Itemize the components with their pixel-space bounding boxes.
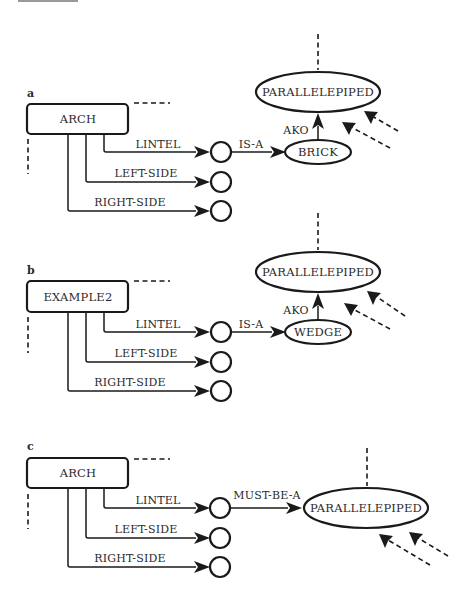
incoming-dashed-edge [353, 309, 390, 329]
relation-label: AKO [282, 304, 308, 317]
panel-label: c [27, 440, 34, 453]
arrowhead-icon [342, 122, 356, 135]
frame-node-label: EXAMPLE2 [44, 290, 113, 304]
relation-label: MUST-BE-A [233, 489, 301, 502]
relation-label: IS-A [239, 318, 265, 331]
arrowhead-icon [286, 502, 302, 514]
panel-label: b [27, 264, 35, 277]
arrowhead-icon [194, 146, 210, 158]
concept-node-label: PARALLELEPIPED [262, 85, 374, 99]
arrowhead-icon [344, 303, 358, 316]
slot-value-node [211, 172, 231, 192]
incoming-dashed-edge [418, 538, 448, 556]
panel-label: a [27, 87, 34, 100]
concept-node-label: BRICK [298, 145, 338, 159]
arrowhead-icon [194, 326, 210, 338]
slot-value-node [211, 352, 231, 372]
arrowhead-icon [194, 561, 210, 573]
slot-value-node [210, 498, 230, 518]
slot-value-node [211, 322, 231, 342]
frame-node-label: ARCH [59, 112, 97, 126]
slot-label: RIGHT-SIDE [94, 196, 165, 209]
arrowhead-icon [194, 532, 210, 544]
incoming-dashed-edge [377, 297, 405, 316]
slot-label: LEFT-SIDE [114, 167, 177, 180]
arrowhead-icon [270, 326, 286, 338]
slot-label: LINTEL [135, 318, 181, 331]
arrowhead-icon [194, 205, 210, 217]
arrowhead-icon [194, 176, 210, 188]
arrowhead-icon [409, 532, 423, 546]
slot-label: LEFT-SIDE [114, 523, 177, 536]
incoming-dashed-edge [388, 540, 430, 565]
panel-a: a ARCH LINTEL LEFT-SIDE RIGHT-SIDE IS-A … [27, 34, 398, 221]
relation-label: AKO [282, 124, 308, 137]
arrowhead-icon [194, 502, 210, 514]
arrowhead-icon [367, 291, 381, 305]
slot-value-node [211, 201, 231, 221]
incoming-dashed-edge [351, 127, 390, 148]
arrowhead-icon [194, 356, 210, 368]
panel-c: c ARCH LINTEL LEFT-SIDE RIGHT-SIDE MUST-… [27, 440, 448, 577]
slot-value-node [210, 557, 230, 577]
panel-b: b EXAMPLE2 LINTEL LEFT-SIDE RIGHT-SIDE I… [27, 213, 405, 401]
slot-label: LEFT-SIDE [114, 347, 177, 360]
arrowhead-icon [194, 385, 210, 397]
incoming-dashed-edge [372, 116, 398, 131]
arrowhead-icon [270, 146, 286, 158]
concept-node-label: PARALLELEPIPED [262, 265, 374, 279]
concept-node-label: WEDGE [294, 325, 342, 339]
slot-label: LINTEL [135, 138, 181, 151]
slot-value-node [211, 381, 231, 401]
semantic-network-diagram: a ARCH LINTEL LEFT-SIDE RIGHT-SIDE IS-A … [0, 0, 468, 604]
concept-node-label: PARALLELEPIPED [310, 501, 422, 515]
frame-node-label: ARCH [59, 466, 97, 480]
slot-value-node [210, 528, 230, 548]
slot-label: LINTEL [135, 494, 181, 507]
relation-label: IS-A [239, 138, 265, 151]
slot-label: RIGHT-SIDE [94, 552, 165, 565]
slot-label: RIGHT-SIDE [94, 376, 165, 389]
slot-value-node [211, 142, 231, 162]
